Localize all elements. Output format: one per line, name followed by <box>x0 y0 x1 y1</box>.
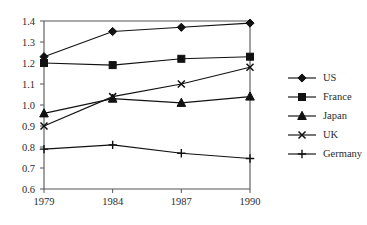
y-tick-label: 1.2 <box>22 58 35 69</box>
chart-legend: USFranceJapanUKGermany <box>287 68 367 163</box>
series-germany <box>40 141 254 163</box>
legend-label: US <box>323 72 336 83</box>
data-point-marker-plus <box>177 149 185 157</box>
y-tick-label: 0.6 <box>22 184 35 195</box>
y-axis-tick-marks <box>40 21 44 189</box>
legend-item-uk[interactable]: UK <box>287 125 367 144</box>
data-point-marker-plus <box>246 154 254 162</box>
data-point-marker-square <box>247 53 254 60</box>
data-series-group <box>40 19 255 163</box>
x-tick-label: 1987 <box>171 196 192 207</box>
series-uk <box>41 64 254 130</box>
data-point-marker-diamond <box>109 27 117 35</box>
data-point-marker-triangle <box>246 92 255 100</box>
series-japan <box>40 92 255 117</box>
series-us <box>40 19 254 61</box>
legend-label: France <box>323 91 352 102</box>
data-point-marker-diamond <box>177 23 185 31</box>
series-line <box>44 23 250 57</box>
legend-marker-triangle-icon <box>287 109 317 123</box>
line-chart-figure: 0.60.70.80.91.01.11.21.31.4 197919841987… <box>0 0 367 225</box>
y-axis-tick-labels: 0.60.70.80.91.01.11.21.31.4 <box>22 16 36 195</box>
series-line <box>44 145 250 159</box>
legend-item-germany[interactable]: Germany <box>287 144 367 163</box>
data-point-marker-square <box>109 62 116 69</box>
legend-label: UK <box>323 129 338 140</box>
x-axis-tick-labels: 1979198419871990 <box>34 196 261 207</box>
series-line <box>44 97 250 114</box>
legend-marker-diamond-icon <box>287 71 317 85</box>
y-tick-label: 1.3 <box>22 37 35 48</box>
legend-label: Japan <box>323 110 347 121</box>
x-axis-tick-marks <box>44 189 250 193</box>
series-france <box>41 53 254 68</box>
y-tick-label: 1.4 <box>22 16 36 27</box>
data-point-marker-diamond <box>298 73 306 81</box>
y-tick-label: 1.1 <box>22 79 35 90</box>
data-point-marker-plus <box>108 141 116 149</box>
legend-item-us[interactable]: US <box>287 68 367 87</box>
y-tick-label: 0.7 <box>22 163 35 174</box>
legend-marker-plus-icon <box>287 147 317 161</box>
data-point-marker-triangle <box>298 111 307 119</box>
data-point-marker-square <box>299 93 306 100</box>
x-tick-label: 1979 <box>34 196 55 207</box>
axis-frame <box>44 21 250 189</box>
data-point-marker-square <box>41 60 48 67</box>
series-line <box>44 57 250 65</box>
legend-item-france[interactable]: France <box>287 87 367 106</box>
x-tick-label: 1990 <box>240 196 261 207</box>
data-point-marker-diamond <box>246 19 254 27</box>
series-line <box>44 67 250 126</box>
y-tick-label: 0.9 <box>22 121 35 132</box>
data-point-marker-square <box>178 55 185 62</box>
legend-item-japan[interactable]: Japan <box>287 106 367 125</box>
x-tick-label: 1984 <box>102 196 124 207</box>
legend-marker-x-icon <box>287 128 317 142</box>
data-point-marker-plus <box>298 149 306 157</box>
legend-label: Germany <box>323 148 362 159</box>
data-point-marker-plus <box>40 145 48 153</box>
y-tick-label: 0.8 <box>22 142 35 153</box>
y-tick-label: 1.0 <box>22 100 35 111</box>
legend-marker-square-icon <box>287 90 317 104</box>
